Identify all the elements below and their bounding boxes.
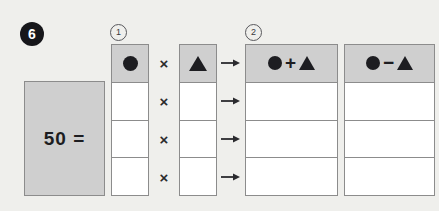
answer-cell-triangle-row2[interactable] [180,121,216,159]
multiply-sign-row2: × [149,120,179,158]
plus-sign: + [285,53,296,72]
operator-column-arrow [217,44,245,196]
triangle-icon [189,56,207,71]
circle-icon [123,56,138,71]
column-header-sum: + [246,45,337,83]
column-header-circle [112,45,148,83]
multiply-sign-row3: × [149,158,179,196]
circle-icon [268,56,282,70]
column-factor-triangle [179,44,217,196]
answer-cell-circle-row1[interactable] [112,83,148,121]
operator-column-multiply: × × × × [149,44,179,196]
column-sum: + [245,44,338,196]
total-value-panel: 50 = [24,81,105,196]
answer-cell-circle-row2[interactable] [112,121,148,159]
step-marker-2-label: 2 [251,28,256,37]
answer-cell-difference-row3[interactable] [345,158,434,195]
answer-cell-sum-row3[interactable] [246,158,337,195]
problem-number-label: 6 [28,27,36,41]
minus-sign: − [383,53,394,72]
answer-cell-triangle-row1[interactable] [180,83,216,121]
arrow-right-icon-row0 [217,44,245,82]
triangle-icon [397,56,413,70]
answer-cell-triangle-row3[interactable] [180,158,216,195]
triangle-icon [299,56,315,70]
column-header-triangle [180,45,216,83]
multiply-sign-row1: × [149,82,179,120]
arrow-right-icon-row2 [217,120,245,158]
total-expression-label: 50 = [44,128,86,150]
answer-cell-sum-row1[interactable] [246,83,337,121]
answer-cell-difference-row2[interactable] [345,121,434,159]
multiply-sign-row0: × [149,44,179,82]
arrow-right-icon-row1 [217,82,245,120]
sum-expression: + [268,54,315,73]
problem-number-badge: 6 [20,22,44,46]
step-marker-1-label: 1 [116,28,121,37]
difference-expression: − [366,54,413,73]
answer-cell-sum-row2[interactable] [246,121,337,159]
column-header-difference: − [345,45,434,83]
column-difference: − [344,44,435,196]
column-factor-circle [111,44,149,196]
arrow-right-icon-row3 [217,158,245,196]
step-marker-1: 1 [110,24,127,41]
step-marker-2: 2 [245,24,262,41]
answer-cell-difference-row1[interactable] [345,83,434,121]
circle-icon [366,56,380,70]
answer-cell-circle-row3[interactable] [112,158,148,195]
